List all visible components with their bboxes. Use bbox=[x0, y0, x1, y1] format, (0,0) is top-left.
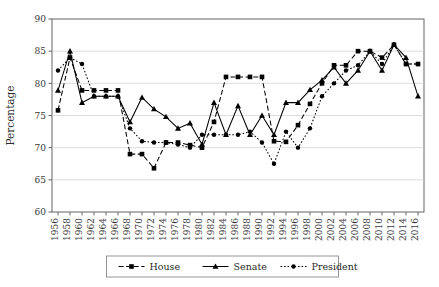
data-point bbox=[116, 88, 121, 93]
chart-legend: HouseSenatePresident bbox=[107, 256, 358, 277]
data-point bbox=[116, 94, 120, 98]
x-tick-label: 2002 bbox=[326, 218, 336, 241]
legend-marker-president bbox=[291, 264, 295, 268]
data-point bbox=[164, 140, 168, 144]
data-point bbox=[224, 75, 229, 80]
chart-container: 6065707580859019561958196019621964196619… bbox=[0, 0, 439, 287]
data-point bbox=[212, 120, 217, 125]
x-tick-label: 1984 bbox=[218, 218, 228, 241]
data-point bbox=[212, 133, 216, 137]
x-tick-label: 1998 bbox=[302, 218, 312, 241]
legend-marker-house bbox=[129, 264, 134, 269]
data-point bbox=[104, 94, 108, 98]
x-tick-label: 1990 bbox=[254, 218, 264, 241]
x-tick-label: 1974 bbox=[158, 218, 168, 241]
data-point bbox=[200, 133, 204, 137]
x-tick-label: 1996 bbox=[290, 218, 300, 241]
data-point bbox=[416, 62, 420, 66]
x-tick-label: 2008 bbox=[362, 218, 372, 241]
data-point bbox=[356, 63, 360, 67]
data-point bbox=[296, 123, 301, 128]
y-axis-title: Percentage bbox=[4, 85, 16, 145]
data-point bbox=[284, 140, 289, 145]
x-tick-label: 1956 bbox=[50, 218, 60, 241]
data-point bbox=[56, 108, 61, 113]
x-tick-label: 1980 bbox=[194, 218, 204, 241]
data-point bbox=[236, 133, 240, 137]
data-point bbox=[284, 129, 288, 133]
data-point bbox=[128, 126, 132, 130]
y-tick-label: 80 bbox=[35, 79, 47, 89]
x-tick-label: 2000 bbox=[314, 218, 324, 241]
x-tick-label: 1970 bbox=[134, 218, 144, 241]
data-point bbox=[248, 129, 252, 133]
x-tick-label: 1994 bbox=[278, 218, 288, 241]
legend-label-house: House bbox=[150, 261, 181, 272]
data-point bbox=[80, 62, 84, 66]
x-tick-label: 1992 bbox=[266, 218, 276, 241]
data-point bbox=[68, 55, 72, 59]
y-tick-label: 90 bbox=[35, 14, 47, 24]
y-tick-label: 65 bbox=[35, 175, 47, 185]
legend-label-president: President bbox=[312, 261, 358, 272]
data-point bbox=[344, 63, 349, 68]
data-point bbox=[188, 145, 192, 149]
x-tick-label: 1982 bbox=[206, 218, 216, 241]
data-point bbox=[56, 68, 60, 72]
data-point bbox=[308, 102, 313, 107]
x-tick-label: 1972 bbox=[146, 218, 156, 241]
data-point bbox=[404, 62, 408, 66]
data-point bbox=[320, 94, 324, 98]
x-tick-label: 1968 bbox=[122, 218, 132, 241]
data-point bbox=[272, 139, 277, 144]
data-point bbox=[140, 152, 145, 157]
x-tick-label: 1978 bbox=[182, 218, 192, 241]
y-tick-label: 60 bbox=[35, 207, 47, 217]
data-point bbox=[248, 75, 253, 80]
data-point bbox=[392, 43, 396, 47]
data-point bbox=[272, 162, 276, 166]
data-point bbox=[260, 140, 264, 144]
data-point bbox=[380, 62, 384, 66]
data-point bbox=[80, 88, 85, 93]
y-tick-label: 85 bbox=[35, 46, 47, 56]
data-point bbox=[344, 68, 348, 72]
data-point bbox=[224, 133, 228, 137]
y-tick-label: 70 bbox=[35, 143, 47, 153]
x-tick-label: 1960 bbox=[74, 218, 84, 241]
data-point bbox=[152, 166, 157, 171]
x-tick-label: 1986 bbox=[230, 218, 240, 241]
x-tick-label: 1962 bbox=[86, 218, 96, 241]
data-point bbox=[152, 140, 156, 144]
x-tick-label: 2012 bbox=[386, 218, 396, 241]
x-tick-label: 2010 bbox=[374, 218, 384, 241]
data-point bbox=[296, 145, 300, 149]
data-point bbox=[92, 94, 96, 98]
data-point bbox=[236, 75, 241, 80]
line-chart: 6065707580859019561958196019621964196619… bbox=[0, 0, 439, 287]
x-tick-label: 2006 bbox=[350, 218, 360, 241]
data-point bbox=[140, 139, 144, 143]
x-tick-label: 2016 bbox=[410, 218, 420, 241]
data-point bbox=[308, 126, 312, 130]
data-point bbox=[356, 49, 361, 54]
data-point bbox=[368, 49, 372, 53]
data-point bbox=[128, 152, 133, 157]
data-point bbox=[104, 88, 109, 93]
data-point bbox=[260, 75, 265, 80]
x-tick-label: 1966 bbox=[110, 218, 120, 241]
x-tick-label: 1976 bbox=[170, 218, 180, 241]
x-tick-label: 1958 bbox=[62, 218, 72, 241]
y-tick-label: 75 bbox=[35, 111, 47, 121]
data-point bbox=[332, 81, 336, 85]
x-tick-label: 1988 bbox=[242, 218, 252, 241]
x-tick-label: 2004 bbox=[338, 218, 348, 241]
data-point bbox=[176, 142, 180, 146]
x-tick-label: 1964 bbox=[98, 218, 108, 241]
data-point bbox=[380, 55, 385, 60]
x-tick-label: 2014 bbox=[398, 218, 408, 241]
legend-label-senate: Senate bbox=[234, 261, 268, 272]
